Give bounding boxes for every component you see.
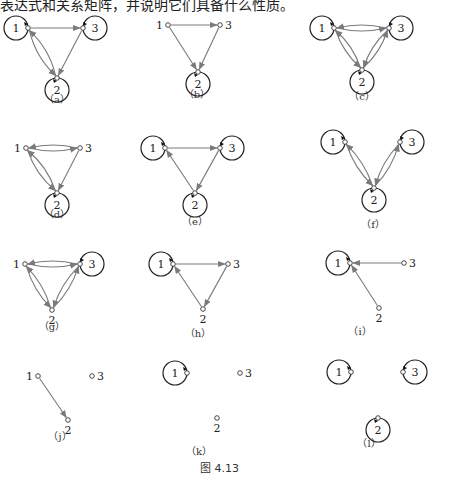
node-label-2: 2: [200, 313, 207, 326]
graph-e: 123（e）: [141, 136, 244, 227]
node-1: [24, 146, 29, 151]
node-3: [78, 262, 83, 267]
node-label-3: 3: [97, 370, 104, 383]
edge-2-to-1: [352, 266, 378, 306]
node-label-1: 1: [13, 258, 20, 271]
edge-1-to-3: [337, 28, 386, 31]
graph-d: 123（d）: [14, 142, 92, 220]
subfigure-caption: （l）: [357, 438, 380, 449]
node-1: [349, 370, 354, 375]
node-2: [376, 416, 381, 421]
node-label-1: 1: [330, 136, 337, 149]
subfigure-caption: （h）: [185, 328, 211, 339]
edge-1-to-2: [336, 30, 361, 67]
subfigure-caption: （c）: [349, 91, 375, 102]
subfigure-caption: （j）: [48, 431, 71, 442]
subfigure-caption: （d）: [44, 209, 70, 220]
node-label-1: 1: [26, 370, 33, 383]
node-label-1: 1: [158, 258, 165, 271]
edge-1-to-2: [170, 28, 197, 70]
graph-j: 123（j）: [26, 370, 104, 442]
node-3: [402, 261, 407, 266]
graph-i: 123（i）: [326, 251, 416, 337]
node-label-3: 3: [92, 22, 99, 35]
edge-2-to-1: [347, 145, 373, 186]
edge-2-to-1: [175, 266, 202, 306]
node-1: [36, 374, 41, 379]
node-3: [226, 262, 231, 267]
node-label-3: 3: [409, 257, 416, 270]
node-1: [166, 23, 171, 28]
subfigure-caption: （a）: [44, 94, 70, 105]
graph-a: 123（a）: [4, 16, 107, 105]
edge-3-to-2: [196, 151, 218, 191]
edge-2-to-1: [30, 31, 56, 76]
edge-1-to-3: [28, 264, 77, 267]
node-3: [387, 26, 392, 31]
node-label-3: 3: [233, 258, 240, 271]
node-1: [332, 26, 337, 31]
node-2: [55, 76, 60, 81]
edge-1-to-2: [40, 378, 67, 417]
node-2: [360, 68, 365, 73]
node-1: [348, 261, 353, 266]
node-2: [50, 308, 55, 313]
edge-3-to-1: [29, 145, 77, 148]
node-label-1: 1: [335, 257, 342, 270]
node-label-1: 1: [13, 22, 20, 35]
node-2: [66, 418, 71, 423]
edge-1-to-2: [347, 145, 373, 186]
node-2: [55, 191, 60, 196]
edge-2-to-3: [375, 145, 398, 186]
relation-graphs-figure: 123（a）123（b）123（c）123（d）123（e）123（f）123（…: [0, 0, 449, 482]
subfigure-caption: （g）: [39, 321, 65, 332]
node-3: [218, 146, 223, 151]
graph-f: 123（f）: [321, 130, 424, 230]
node-3: [401, 370, 406, 375]
node-label-2: 2: [192, 199, 199, 212]
node-label-1: 1: [156, 19, 163, 32]
graph-g: 123（g）: [13, 252, 104, 332]
node-2: [196, 70, 201, 75]
node-3: [238, 371, 243, 376]
node-label-3: 3: [229, 142, 236, 155]
subfigure-caption: （k）: [186, 446, 212, 457]
subfigure-caption: （b）: [184, 89, 210, 100]
edge-1-to-2: [28, 150, 56, 190]
edge-2-to-1: [167, 150, 194, 190]
node-3: [81, 26, 86, 31]
graph-k: 123（k）: [163, 361, 252, 457]
node-1: [23, 262, 28, 267]
edge-2-to-3: [364, 31, 388, 68]
edge-1-to-3: [29, 148, 77, 151]
node-3: [78, 146, 83, 151]
node-label-1: 1: [14, 142, 21, 155]
node-label-2: 2: [375, 424, 382, 437]
graph-h: 123（h）: [149, 252, 240, 339]
edge-3-to-2: [364, 31, 388, 68]
node-label-2: 2: [214, 422, 221, 435]
node-2: [193, 191, 198, 196]
node-label-1: 1: [150, 142, 157, 155]
node-label-1: 1: [319, 22, 326, 35]
node-label-1: 1: [336, 366, 343, 379]
edge-2-to-1: [27, 267, 51, 308]
edge-2-to-1: [336, 30, 361, 67]
subfigure-caption: （f）: [361, 219, 385, 230]
node-1: [185, 371, 190, 376]
node-label-3: 3: [398, 22, 405, 35]
edge-3-to-1: [28, 261, 77, 264]
node-label-2: 2: [371, 194, 378, 207]
graph-l: 123（l）: [327, 360, 427, 449]
edge-3-to-2: [58, 151, 78, 191]
node-label-3: 3: [412, 366, 419, 379]
edge-3-to-2: [58, 31, 81, 76]
graphs-layer: 123（a）123（b）123（c）123（d）123（e）123（f）123（…: [4, 16, 427, 457]
edge-2-to-1: [28, 150, 56, 190]
edge-2-to-3: [54, 267, 79, 308]
node-1: [171, 262, 176, 267]
node-3: [398, 140, 403, 145]
figure-caption: 图 4.13: [200, 462, 239, 475]
node-label-3: 3: [89, 258, 96, 271]
graph-c: 123（c）: [310, 16, 413, 102]
